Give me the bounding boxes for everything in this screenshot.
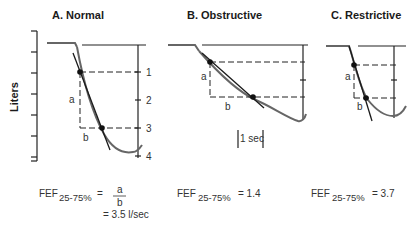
panel-obstructive: B. Obstructive a b 1 sec <box>168 9 308 148</box>
equation-lhs: FEF <box>311 188 330 199</box>
liters-axis <box>31 31 37 161</box>
panel-title: A. Normal <box>52 9 104 21</box>
segment-b-label: b <box>357 101 363 112</box>
fraction-numerator: a <box>117 184 123 195</box>
panel-title: B. Obstructive <box>187 9 262 21</box>
segment-b-label: b <box>83 132 89 143</box>
equation-subscript: 25-75% <box>59 192 92 203</box>
volume-tick-label: 2 <box>146 95 152 106</box>
time-scale-label: 1 sec <box>240 133 264 144</box>
equation-value: = 1.4 <box>238 188 261 199</box>
equation-equals: = <box>97 188 103 199</box>
time-scale-bar: 1 sec <box>238 130 264 148</box>
equation-normal: FEF 25-75% = a b = 3.5 l/sec <box>39 184 149 220</box>
75-percent-point <box>99 125 105 131</box>
25-percent-point <box>77 69 83 75</box>
volume-tick-label: 3 <box>146 123 152 134</box>
equation-subscript: 25-75% <box>332 192 365 203</box>
25-percent-point <box>351 62 357 68</box>
segment-b-label: b <box>225 101 231 112</box>
panel-normal: A. Normal 1 2 3 4 a b <box>47 9 152 162</box>
equation-result: = 3.5 l/sec <box>103 209 149 220</box>
spirometry-diagram: Liters A. Normal 1 2 3 4 a b B. Obstruct… <box>0 0 418 233</box>
segment-a-label: a <box>201 71 207 82</box>
equation-obstructive: FEF 25-75% = 1.4 <box>177 188 261 203</box>
panel-title: C. Restrictive <box>331 9 401 21</box>
y-axis-label: Liters <box>8 82 20 112</box>
75-percent-point <box>363 95 369 101</box>
panel-restrictive: C. Restrictive a b <box>326 9 406 121</box>
equation-restrictive: FEF 25-75% = 3.7 <box>311 188 395 203</box>
volume-tick-label: 1 <box>146 67 152 78</box>
75-percent-point <box>250 94 256 100</box>
fraction-denominator: b <box>117 197 123 208</box>
segment-a-label: a <box>69 94 75 105</box>
25-percent-point <box>207 59 213 65</box>
segment-a-label: a <box>345 71 351 82</box>
equation-value: = 3.7 <box>372 188 395 199</box>
equation-subscript: 25-75% <box>198 192 231 203</box>
equation-lhs: FEF <box>177 188 196 199</box>
volume-tick-label: 4 <box>146 151 152 162</box>
equation-lhs: FEF <box>39 188 58 199</box>
